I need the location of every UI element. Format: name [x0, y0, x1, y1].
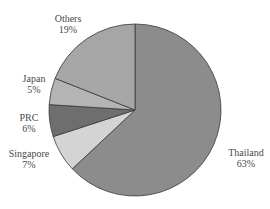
slice-label-singapore: Singapore [9, 148, 50, 159]
slice-label-thailand: Thailand [228, 147, 264, 158]
pie-chart: Thailand63%Singapore7%PRC6%Japan5%Others… [0, 0, 270, 209]
slice-value-japan: 5% [27, 84, 40, 95]
slice-label-prc: PRC [20, 112, 39, 123]
slice-value-prc: 6% [22, 123, 35, 134]
slice-label-others: Others [55, 13, 82, 24]
slice-value-thailand: 63% [237, 158, 255, 169]
slice-value-singapore: 7% [22, 159, 35, 170]
slice-value-others: 19% [59, 24, 77, 35]
slice-label-japan: Japan [23, 73, 46, 84]
pie-slices [49, 24, 221, 196]
